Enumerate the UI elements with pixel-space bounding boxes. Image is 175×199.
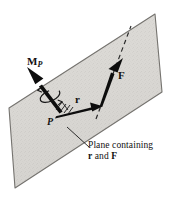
label-position-vector: r [75, 94, 80, 105]
caption-line-2: r and F [88, 152, 153, 162]
diagram-canvas [0, 0, 175, 199]
label-force-vector: F [118, 70, 125, 81]
caption-conjunction: and [92, 151, 111, 161]
moment-vector-diagram: MP F r P Plane containingr and F [0, 0, 175, 199]
plane-surface [9, 14, 162, 188]
caption-line-1: Plane containing [88, 140, 153, 150]
label-point-p: P [47, 117, 53, 127]
caption-vector-f: F [111, 151, 117, 161]
label-moment-vector: MP [27, 56, 42, 69]
plane-caption: Plane containingr and F [88, 141, 153, 162]
